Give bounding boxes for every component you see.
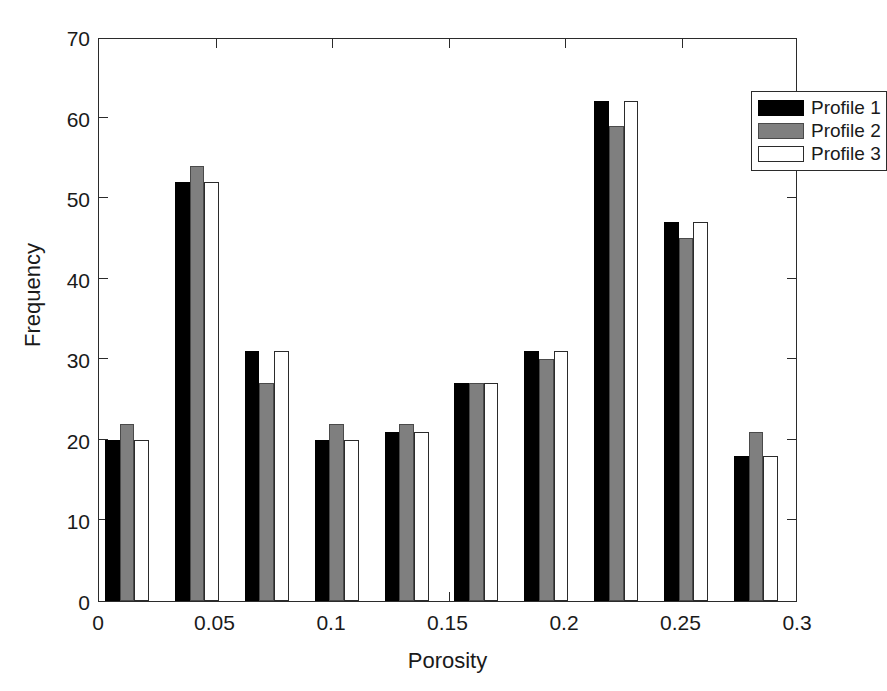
bar (624, 101, 639, 601)
bar (609, 126, 624, 601)
legend-swatch-profile-3 (758, 146, 804, 162)
legend-label-profile-1: Profile 1 (811, 98, 881, 117)
legend-swatch-profile-2 (758, 123, 804, 139)
x-axis-tick (332, 39, 333, 48)
y-axis-tick (99, 197, 108, 198)
bar (315, 440, 330, 601)
y-axis-title: Frequency (20, 195, 46, 395)
y-axis-tick (787, 358, 796, 359)
y-axis-tick (787, 197, 796, 198)
bar (399, 424, 414, 601)
y-axis-tick (99, 117, 108, 118)
bar-group (175, 39, 219, 601)
y-axis-tick-label: 70 (30, 28, 90, 49)
x-axis-tick-label: 0.2 (519, 612, 609, 633)
bar (190, 166, 205, 601)
bar (134, 440, 149, 601)
bar-group (454, 39, 498, 601)
bar (385, 432, 400, 601)
bar (204, 182, 219, 601)
bar (329, 424, 344, 601)
bar (175, 182, 190, 601)
legend-entry: Profile 1 (758, 97, 880, 118)
bar (259, 383, 274, 601)
legend: Profile 1 Profile 2 Profile 3 (751, 91, 887, 171)
x-axis-tick (449, 592, 450, 601)
bar-group (105, 39, 149, 601)
bar (763, 456, 778, 601)
bar-group (315, 39, 359, 601)
plot-area: Profile 1 Profile 2 Profile 3 (98, 38, 797, 602)
bar (245, 351, 260, 601)
x-axis-tick-label: 0.05 (170, 612, 260, 633)
bar-group (594, 39, 638, 601)
legend-label-profile-2: Profile 2 (811, 121, 881, 140)
y-axis-tick-label: 10 (30, 511, 90, 532)
bar (734, 456, 749, 601)
legend-entry: Profile 3 (758, 143, 880, 164)
bar (749, 432, 764, 601)
bar (664, 222, 679, 601)
bar-group (385, 39, 429, 601)
bar (105, 440, 120, 601)
legend-entry: Profile 2 (758, 120, 880, 141)
bar (594, 101, 609, 601)
y-axis-tick (787, 439, 796, 440)
bar (679, 238, 694, 601)
x-axis-tick-label: 0 (53, 612, 143, 633)
bar (120, 424, 135, 601)
x-axis-tick-label: 0.3 (752, 612, 842, 633)
bar-group (664, 39, 708, 601)
y-axis-tick (99, 358, 108, 359)
bars-layer (99, 39, 796, 601)
legend-swatch-profile-1 (758, 100, 804, 116)
y-axis-tick-label: 0 (30, 592, 90, 613)
x-axis-title: Porosity (98, 648, 797, 674)
bar-group (524, 39, 568, 601)
x-axis-tick-label: 0.25 (636, 612, 726, 633)
x-axis-tick (565, 39, 566, 48)
x-axis-tick (216, 39, 217, 48)
bar (454, 383, 469, 601)
y-axis-tick-label: 20 (30, 431, 90, 452)
y-axis-tick (787, 278, 796, 279)
legend-label-profile-3: Profile 3 (811, 144, 881, 163)
bar (693, 222, 708, 601)
x-axis-tick (449, 39, 450, 48)
bar (484, 383, 499, 601)
x-axis-tick (682, 39, 683, 48)
y-axis-tick-label: 60 (30, 109, 90, 130)
bar (344, 440, 359, 601)
bar (414, 432, 429, 601)
bar (469, 383, 484, 601)
x-axis-tick-labels: 00.050.10.150.20.250.3 (98, 612, 797, 642)
bar-group (245, 39, 289, 601)
bar (274, 351, 289, 601)
x-axis-tick-label: 0.15 (403, 612, 493, 633)
y-axis-tick (99, 278, 108, 279)
bar (554, 351, 569, 601)
x-axis-tick-label: 0.1 (286, 612, 376, 633)
bar (539, 359, 554, 601)
y-axis-tick (787, 519, 796, 520)
bar (524, 351, 539, 601)
